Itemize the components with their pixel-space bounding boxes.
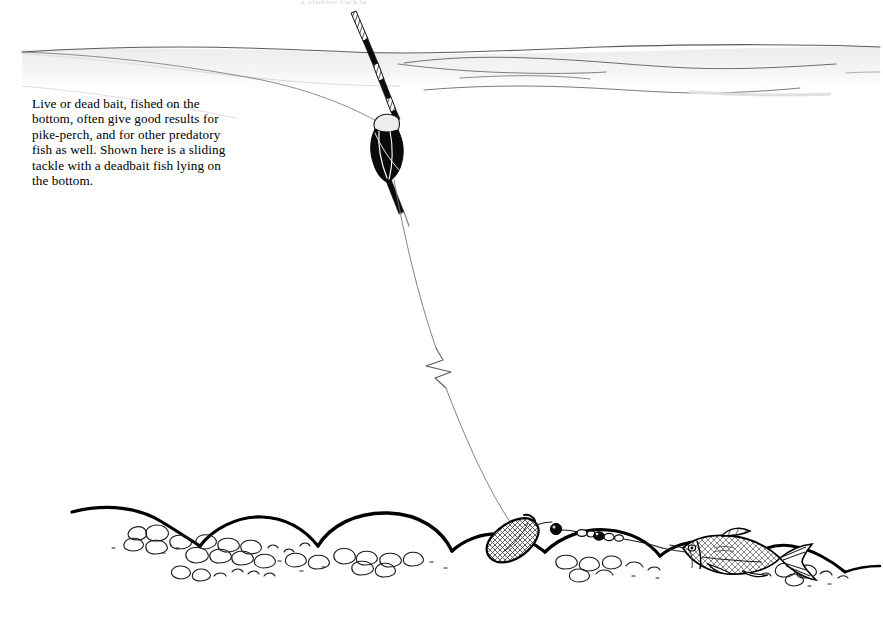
- sinker-to-bead-line: [536, 522, 552, 525]
- fish-dorsal-fin: [722, 528, 750, 536]
- float: [351, 11, 409, 226]
- stopper-bead: [550, 523, 561, 534]
- fishing-scene-illustration: [0, 0, 883, 617]
- float-body: [371, 114, 403, 182]
- lead-sinker: [487, 515, 539, 563]
- main-line: [394, 180, 514, 528]
- bottom-tackle: [487, 515, 702, 563]
- water-tint-band: [22, 46, 880, 97]
- deadbait-fish: [670, 528, 816, 580]
- illustration-page: Live or dead bait, fished on the bottom,…: [0, 0, 883, 617]
- bottom-contour-2: [200, 517, 318, 546]
- line-break-zigzag: [426, 348, 451, 388]
- fish-eye: [688, 545, 695, 551]
- water-group: [22, 45, 880, 98]
- cropped-header-text: a sliding tackle: [300, 0, 600, 4]
- main-line-lower: [446, 388, 514, 528]
- float-stem: [386, 179, 409, 226]
- bottom-contour-8: [845, 566, 880, 572]
- caption-text: Live or dead bait, fished on the bottom,…: [32, 96, 232, 188]
- bottom-contour-3: [318, 513, 452, 551]
